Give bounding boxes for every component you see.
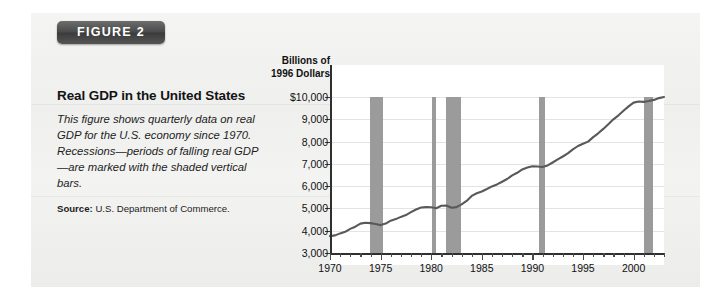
x-tick	[583, 253, 584, 260]
figure-caption: Real GDP in the United States This figur…	[57, 88, 269, 215]
x-tick	[553, 253, 554, 257]
y-tick-label: 8,000	[218, 137, 328, 148]
x-tick	[543, 253, 544, 257]
y-tick-label: 3,000	[218, 248, 328, 259]
x-tick	[330, 253, 331, 260]
source-label: Source:	[57, 203, 93, 214]
x-tick	[644, 253, 645, 257]
x-tick	[563, 253, 564, 257]
x-tick	[654, 253, 655, 257]
y-axis-line	[330, 65, 332, 253]
x-tick	[603, 253, 604, 257]
x-tick	[462, 253, 463, 257]
figure-badge-label: FIGURE 2	[57, 25, 165, 39]
x-tick	[492, 253, 493, 257]
x-tick-label: 1970	[310, 262, 350, 274]
x-tick	[573, 253, 574, 257]
x-tick	[512, 253, 513, 257]
x-tick-label: 1975	[361, 262, 401, 274]
x-tick	[452, 253, 453, 257]
x-tick	[381, 253, 382, 260]
x-tick	[371, 253, 372, 257]
x-tick	[340, 253, 341, 257]
y-tick-label: 9,000	[218, 114, 328, 125]
x-tick	[360, 253, 361, 257]
x-tick	[472, 253, 473, 257]
x-tick	[421, 253, 422, 257]
y-tick-label: $10,000	[218, 92, 328, 103]
x-tick	[441, 253, 442, 257]
x-tick	[532, 253, 533, 260]
x-tick	[613, 253, 614, 257]
x-tick-label: 2000	[614, 262, 654, 274]
x-tick	[664, 253, 665, 257]
source-text: U.S. Department of Commerce.	[95, 203, 229, 214]
y-tick-label: 7,000	[218, 159, 328, 170]
x-tick	[634, 253, 635, 260]
x-tick	[391, 253, 392, 257]
x-tick-label: 1985	[462, 262, 502, 274]
figure-page: FIGURE 2 Real GDP in the United States T…	[0, 0, 719, 296]
x-tick	[522, 253, 523, 257]
x-tick	[624, 253, 625, 257]
y-tick-label: 6,000	[218, 181, 328, 192]
chart: Billions of 1996 Dollars $10,0009,0008,0…	[274, 55, 666, 265]
x-tick-label: 1980	[411, 262, 451, 274]
y-tick-label: 5,000	[218, 203, 328, 214]
x-tick-label: 1990	[512, 262, 552, 274]
x-tick	[482, 253, 483, 260]
x-tick	[593, 253, 594, 257]
gdp-line-series	[274, 55, 666, 265]
figure-badge: FIGURE 2	[57, 21, 165, 44]
y-tick-label: 4,000	[218, 226, 328, 237]
x-tick	[411, 253, 412, 257]
x-tick	[431, 253, 432, 260]
x-tick	[502, 253, 503, 257]
x-tick	[350, 253, 351, 257]
x-tick	[401, 253, 402, 257]
x-tick-label: 1995	[563, 262, 603, 274]
